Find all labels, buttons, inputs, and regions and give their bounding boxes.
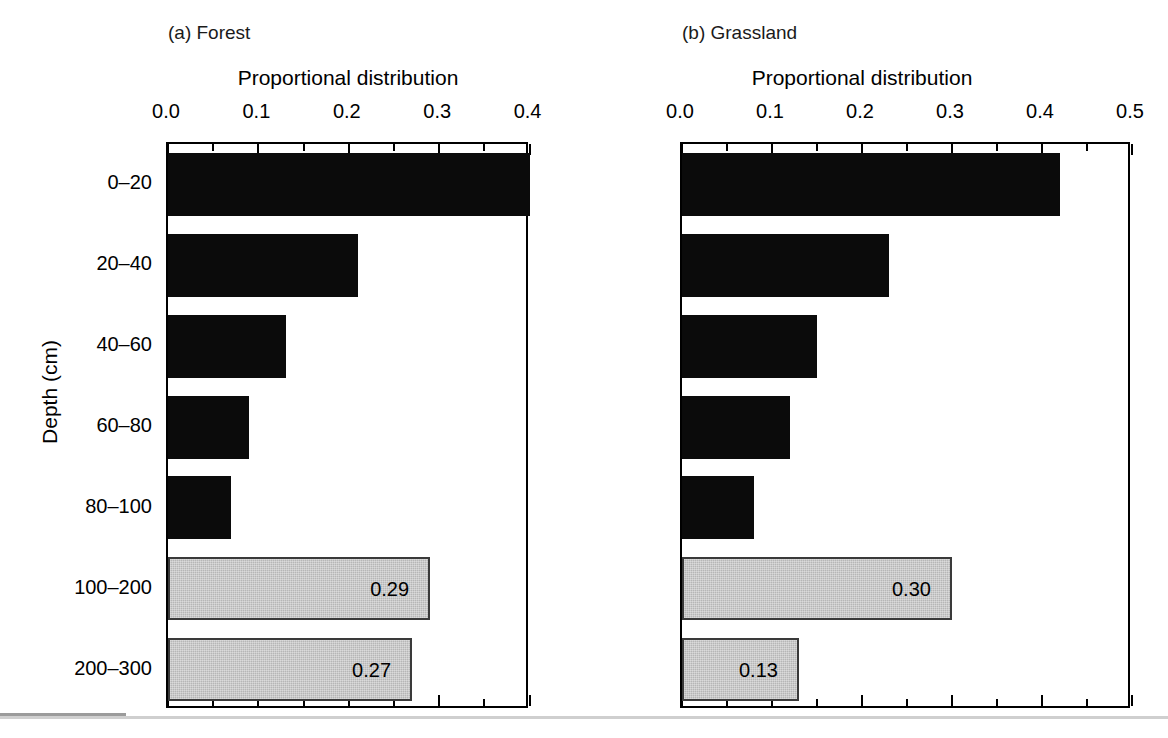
bar-grassland-4 [682, 476, 754, 539]
x-minor-tick [303, 144, 305, 151]
bar-grassland-1 [682, 234, 889, 297]
panel-b-x-tick-label-2: 0.2 [830, 100, 890, 122]
x-minor-tick [1086, 699, 1088, 706]
panel-b-x-tick-label-0: 0.0 [650, 100, 710, 122]
y-axis-tick-labels: 0–2020–4040–6060–8080–100100–200200–300 [0, 142, 152, 708]
panel-a-x-tick-label-2: 0.2 [317, 100, 377, 122]
panel-a-x-tick-label-4: 0.4 [498, 100, 558, 122]
bar-forest-1 [168, 234, 358, 297]
x-major-tick [438, 695, 440, 706]
footer-rule [0, 716, 1168, 719]
panel-b-x-tick-label-5: 0.5 [1100, 100, 1160, 122]
x-minor-tick [906, 699, 908, 706]
x-minor-tick [726, 144, 728, 151]
x-minor-tick [1086, 144, 1088, 151]
bar-value-label-6: 0.27 [352, 659, 391, 681]
x-minor-tick [393, 144, 395, 151]
panel-a-x-tick-label-0: 0.0 [136, 100, 196, 122]
x-major-tick [1041, 695, 1043, 706]
x-minor-tick [816, 699, 818, 706]
panel-a-title: (a) Forest [168, 22, 250, 44]
bar-value-label-5: 0.30 [892, 578, 931, 600]
x-minor-tick [996, 699, 998, 706]
x-major-tick [1131, 144, 1133, 155]
x-minor-tick [906, 144, 908, 151]
bar-grassland-0 [682, 153, 1060, 216]
y-tick-label-3: 60–80 [2, 414, 152, 436]
x-minor-tick [483, 699, 485, 706]
bar-value-label-6: 0.13 [739, 659, 778, 681]
y-tick-label-2: 40–60 [2, 333, 152, 355]
bar-value-label-5: 0.29 [370, 578, 409, 600]
x-minor-tick [212, 144, 214, 151]
panel-a-x-axis-title: Proportional distribution [167, 66, 529, 90]
panel-b-x-tick-label-4: 0.4 [1010, 100, 1070, 122]
x-minor-tick [996, 144, 998, 151]
panel-b-x-tick-label-3: 0.3 [920, 100, 980, 122]
y-tick-label-0: 0–20 [2, 171, 152, 193]
bar-grassland-2 [682, 315, 817, 378]
bar-forest-3 [168, 396, 249, 459]
bar-grassland-3 [682, 396, 790, 459]
panel-b-title: (b) Grassland [682, 22, 797, 44]
x-major-tick [1131, 695, 1133, 706]
panel-b-x-axis-title: Proportional distribution [681, 66, 1043, 90]
y-tick-label-6: 200–300 [2, 657, 152, 679]
bar-forest-4 [168, 476, 231, 539]
x-major-tick [951, 695, 953, 706]
panel-b-plot-area: 0.300.13 [680, 142, 1130, 708]
bar-forest-2 [168, 315, 286, 378]
y-tick-label-5: 100–200 [2, 576, 152, 598]
x-major-tick [861, 695, 863, 706]
y-tick-label-4: 80–100 [2, 495, 152, 517]
y-tick-label-1: 20–40 [2, 252, 152, 274]
x-minor-tick [483, 144, 485, 151]
panel-a-x-tick-label-3: 0.3 [407, 100, 467, 122]
panel-b-x-tick-label-1: 0.1 [740, 100, 800, 122]
x-minor-tick [816, 144, 818, 151]
panel-a-x-tick-label-1: 0.1 [226, 100, 286, 122]
panel-a-plot-area: 0.290.27 [166, 142, 528, 708]
x-major-tick [529, 695, 531, 706]
figure-root: (a) Forest (b) Grassland Proportional di… [0, 0, 1168, 738]
bar-forest-0 [168, 153, 530, 216]
